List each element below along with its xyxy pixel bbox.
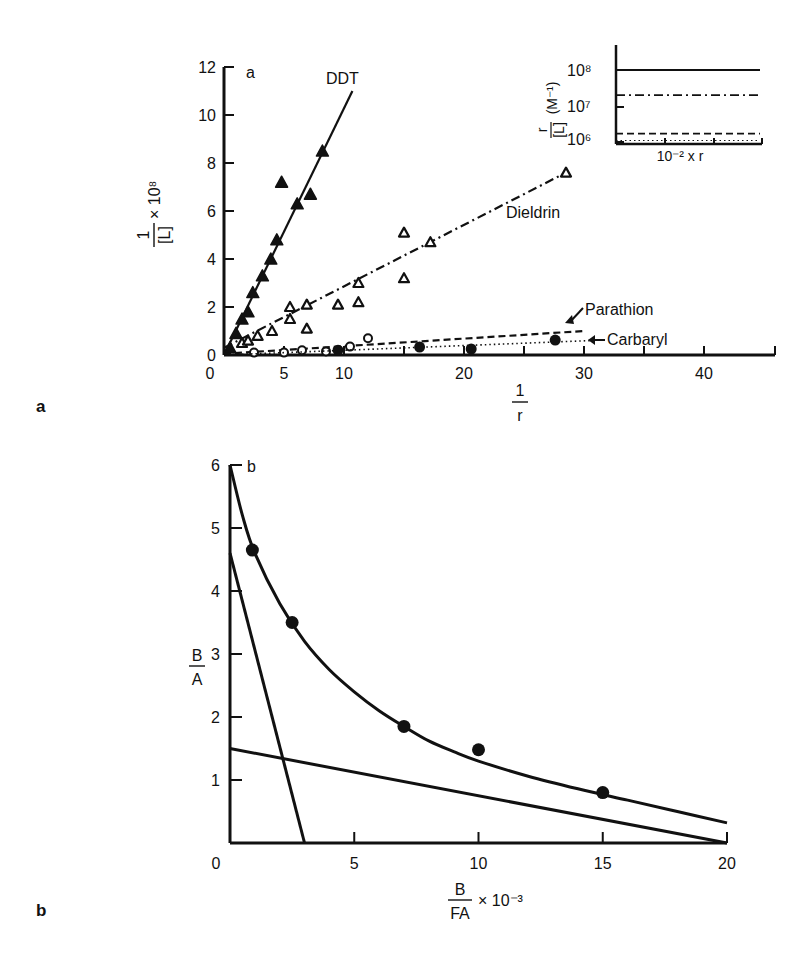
- panel-a-xtick-label: 20: [455, 365, 473, 382]
- filled-triangle-marker: [242, 306, 254, 317]
- open-triangle-marker: [267, 326, 277, 335]
- panel-a-xtick-label: 0: [206, 365, 215, 382]
- panel-a-ytick-label: 2: [207, 299, 216, 316]
- series-label-parathion: Parathion: [585, 301, 654, 318]
- filled-circle-marker: [550, 335, 561, 346]
- inset-ylabel-unit: (M⁻¹): [544, 82, 560, 115]
- panel-a-letter: a: [36, 397, 46, 416]
- panel-b-xtick-label: 0: [212, 855, 221, 872]
- panel-a-ytick-label: 6: [207, 203, 216, 220]
- filled-circle-marker: [466, 344, 477, 355]
- open-triangle-marker: [302, 324, 312, 333]
- panel-a-xtick-label: 40: [695, 365, 713, 382]
- open-circle-marker: [298, 346, 306, 354]
- series-label-ddt: DDT: [326, 70, 359, 87]
- open-triangle-marker: [285, 302, 295, 311]
- chart-panel-b: 12345605101520 b b B A B FA × 10⁻³: [36, 457, 736, 922]
- open-triangle-marker: [399, 273, 409, 282]
- filled-triangle-marker: [291, 198, 303, 209]
- filled-circle-marker: [333, 345, 344, 356]
- panel-b-ylabel-den: A: [192, 671, 203, 688]
- panel-b-xtick-label: 20: [718, 855, 736, 872]
- panel-a-ytick-label: 0: [207, 347, 216, 364]
- panel-b-xlabel-den: FA: [450, 905, 470, 922]
- panel-a-xtick-label: 10: [335, 365, 353, 382]
- panel-a-ytick-label: 12: [198, 59, 216, 76]
- inset-ytick-1e8: 10⁸: [567, 62, 592, 79]
- filled-triangle-marker: [230, 327, 242, 338]
- series-carbaryl: [224, 335, 590, 356]
- carbaryl-arrowhead-icon: [588, 335, 595, 345]
- open-triangle-marker: [399, 228, 409, 237]
- series-label-carbaryl: Carbaryl: [607, 331, 667, 348]
- binding-curve: [230, 465, 727, 823]
- panel-a-ylabel-num: 1: [135, 230, 152, 239]
- panel-a-ytick-label: 10: [198, 107, 216, 124]
- filled-triangle-marker: [265, 253, 277, 264]
- filled-circle-marker: [414, 342, 425, 353]
- panel-a-inset: r [L] (M⁻¹) 10⁸ 10⁷ 10⁶ 10⁻² x r: [534, 45, 762, 164]
- panel-a-ytick-label: 8: [207, 155, 216, 172]
- chart-panel-a: 0246810120102030405 a a DDT Dieldrin Par…: [36, 45, 775, 424]
- open-triangle-marker: [561, 168, 571, 177]
- filled-triangle-marker: [304, 188, 316, 199]
- panel-a-xlabel-den: r: [517, 407, 523, 424]
- filled-triangle-marker: [276, 176, 288, 187]
- inset-ylabel: r [L] (M⁻¹): [534, 82, 567, 138]
- component-line: [230, 553, 305, 843]
- series-high-affinity-component: [230, 553, 305, 843]
- panel-b-ytick-label: 1: [211, 772, 220, 789]
- panel-b-series: [230, 465, 727, 843]
- panel-b-inner-label: b: [247, 458, 256, 475]
- panel-a-xtick-label: 5: [280, 365, 289, 382]
- panel-b-xtick-label: 15: [594, 855, 612, 872]
- open-triangle-marker: [353, 297, 363, 306]
- panel-b-ytick-label: 5: [211, 520, 220, 537]
- figure-canvas: 0246810120102030405 a a DDT Dieldrin Par…: [0, 0, 804, 965]
- inset-ytick-1e6: 10⁶: [567, 131, 591, 148]
- open-triangle-marker: [333, 300, 343, 309]
- panel-b-labels: b b B A B FA × 10⁻³: [36, 458, 524, 922]
- filled-triangle-marker: [316, 145, 328, 156]
- filled-circle-marker: [472, 743, 485, 756]
- filled-circle-marker: [286, 616, 299, 629]
- fit-line: [224, 341, 590, 355]
- open-circle-marker: [280, 349, 288, 357]
- panel-b-ytick-label: 2: [211, 709, 220, 726]
- panel-a-xtick-label: 30: [575, 365, 593, 382]
- filled-circle-marker: [596, 786, 609, 799]
- filled-triangle-marker: [256, 270, 268, 281]
- panel-a-ylabel: 1 [L] × 10⁸: [135, 181, 173, 247]
- panel-a-ylabel-den: [L]: [156, 226, 173, 244]
- panel-b-xtick-label: 10: [470, 855, 488, 872]
- series-dieldrin: [224, 168, 571, 348]
- open-circle-marker: [250, 349, 258, 357]
- panel-a-ylabel-suffix: × 10⁸: [146, 181, 163, 219]
- panel-b-ytick-label: 3: [211, 646, 220, 663]
- panel-a-inner-label: a: [246, 64, 255, 81]
- inset-xlabel: 10⁻² x r: [657, 148, 704, 164]
- panel-b-ytick-label: 4: [211, 583, 220, 600]
- panel-b-ylabel-num: B: [192, 647, 203, 664]
- panel-a-xlabel-num: 1: [516, 382, 525, 399]
- filled-circle-marker: [246, 544, 259, 557]
- panel-a-axes: 0246810120102030405: [198, 59, 775, 382]
- panel-b-xtick-label: 5: [350, 855, 359, 872]
- panel-b-xlabel-num: B: [455, 881, 466, 898]
- series-data-curve: [230, 465, 727, 823]
- open-triangle-marker: [302, 300, 312, 309]
- inset-ytick-1e7: 10⁷: [567, 98, 591, 115]
- inset-ylabel-den: [L]: [551, 122, 567, 138]
- parathion-arrowhead-icon: [565, 315, 574, 324]
- panel-b-letter: b: [36, 901, 46, 920]
- series-label-dieldrin: Dieldrin: [506, 204, 560, 221]
- panel-b-ytick-label: 6: [211, 457, 220, 474]
- filled-circle-marker: [397, 720, 410, 733]
- panel-b-xlabel-suffix: × 10⁻³: [478, 892, 524, 909]
- open-circle-marker: [364, 334, 372, 342]
- panel-b-axes: 12345605101520: [211, 457, 736, 872]
- open-triangle-marker: [425, 237, 435, 246]
- panel-a-ytick-label: 4: [207, 251, 216, 268]
- open-triangle-marker: [353, 278, 363, 287]
- inset-ylabel-num: r: [534, 127, 550, 132]
